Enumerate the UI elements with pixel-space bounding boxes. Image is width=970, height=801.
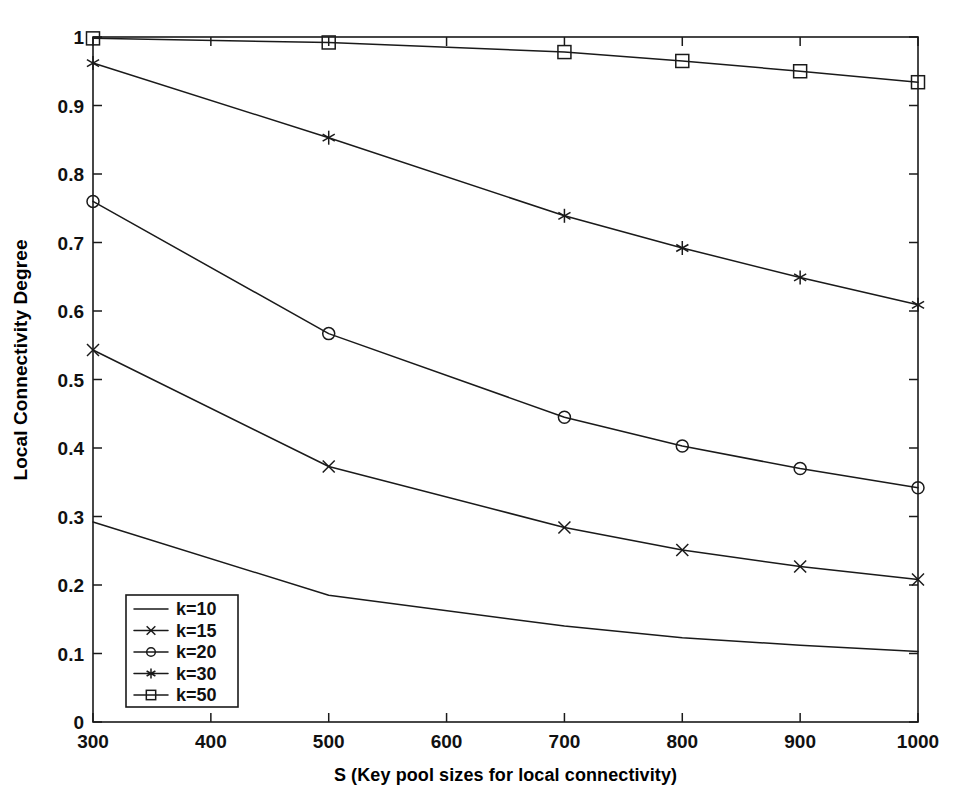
y-tick-label: 0.8 — [58, 164, 84, 185]
data-series-group — [87, 32, 925, 652]
x-axis-tick-labels: 3004005006007008009001000 — [77, 731, 939, 752]
y-tick-label: 0.4 — [58, 438, 85, 459]
y-tick-label: 0.6 — [58, 301, 84, 322]
series-k-20 — [87, 195, 924, 493]
x-tick-label: 400 — [195, 731, 227, 752]
legend-label: k=30 — [176, 664, 217, 684]
chart-figure: Local Connectivity Degree S (Key pool si… — [0, 0, 970, 801]
series-k-50 — [87, 32, 925, 89]
marker-asterisk — [323, 131, 335, 145]
y-tick-label: 0.7 — [58, 233, 84, 254]
marker-x — [323, 460, 335, 472]
plot-canvas: 3004005006007008009001000 00.10.20.30.40… — [0, 0, 970, 801]
x-tick-label: 300 — [77, 731, 109, 752]
y-tick-label: 0.3 — [58, 507, 84, 528]
series-path — [93, 201, 918, 487]
legend-label: k=20 — [176, 642, 217, 662]
y-tick-label: 1 — [73, 27, 84, 48]
x-tick-label: 800 — [666, 731, 698, 752]
marker-x — [558, 521, 570, 533]
legend-label: k=10 — [176, 599, 217, 619]
series-k-15 — [87, 344, 924, 585]
x-tick-label: 900 — [784, 731, 816, 752]
y-axis-tick-labels: 00.10.20.30.40.50.60.70.80.91 — [58, 27, 85, 733]
series-path — [93, 63, 918, 305]
x-tick-label: 500 — [313, 731, 345, 752]
marker-asterisk — [912, 298, 924, 312]
marker-asterisk — [87, 56, 99, 70]
legend-label: k=50 — [176, 685, 217, 705]
y-tick-label: 0 — [73, 712, 84, 733]
marker-asterisk — [794, 270, 806, 284]
chart-legend[interactable]: k=10k=15k=20k=30k=50 — [126, 595, 238, 707]
marker-asterisk — [676, 241, 688, 255]
y-axis-title: Local Connectivity Degree — [10, 0, 44, 740]
x-axis-title: S (Key pool sizes for local connectivity… — [93, 765, 918, 786]
y-tick-label: 0.5 — [58, 370, 85, 391]
series-k-30 — [87, 56, 924, 312]
x-tick-label: 1000 — [897, 731, 939, 752]
y-tick-label: 0.9 — [58, 96, 84, 117]
legend-label: k=15 — [176, 621, 217, 641]
marker-asterisk — [558, 209, 570, 223]
x-tick-label: 700 — [549, 731, 581, 752]
series-path — [93, 350, 918, 579]
y-tick-label: 0.1 — [58, 644, 85, 665]
x-tick-label: 600 — [431, 731, 463, 752]
y-tick-label: 0.2 — [58, 575, 84, 596]
